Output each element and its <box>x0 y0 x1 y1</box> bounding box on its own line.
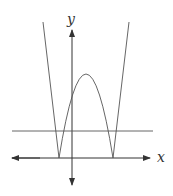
graph: y x <box>0 0 173 196</box>
w-shaped-curve <box>43 22 129 158</box>
y-axis-label: y <box>66 11 76 27</box>
x-axis-label: x <box>157 149 165 165</box>
